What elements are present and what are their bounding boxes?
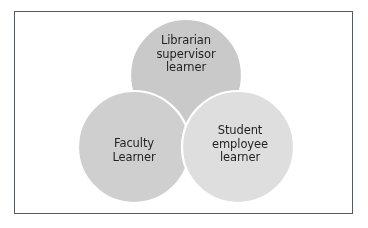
venn-circle-faculty (78, 91, 190, 203)
venn-circle-student (182, 91, 294, 203)
venn-circles-group (0, 0, 368, 228)
venn-diagram: Librarian supervisor learner Faculty Lea… (0, 0, 368, 228)
